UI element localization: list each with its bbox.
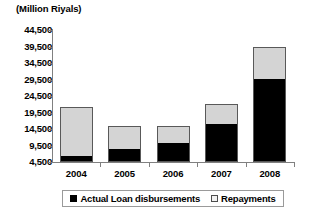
- y-axis-tick-label: 14,500: [6, 124, 52, 134]
- x-axis-tick-mark: [100, 163, 101, 167]
- bar-segment-disbursements: [206, 124, 237, 161]
- legend-item-label: Actual Loan disbursements: [80, 193, 200, 204]
- x-axis-category-label: 2008: [246, 168, 294, 179]
- legend-item-label: Repayments: [221, 193, 276, 204]
- y-axis-tick-label: 29,500: [6, 75, 52, 85]
- plot-area: [52, 30, 294, 162]
- x-axis-category-label: 2005: [100, 168, 148, 179]
- bar-stack-2007: [205, 104, 238, 162]
- stacked-bar-chart: (Million Riyals) 4,5009,50014,50019,5002…: [0, 0, 313, 217]
- bar-segment-disbursements: [61, 156, 92, 161]
- light-square-icon: [211, 195, 218, 202]
- bar-stack-2006: [157, 126, 190, 162]
- bar-segment-disbursements: [158, 143, 189, 161]
- bar-group: [60, 30, 93, 162]
- legend-item-repayments: Repayments: [211, 193, 276, 204]
- x-axis-tick-mark: [197, 163, 198, 167]
- bar-group: [205, 30, 238, 162]
- legend-item-disbursements: Actual Loan disbursements: [70, 193, 200, 204]
- y-axis-tick-label: 34,500: [6, 58, 52, 68]
- bar-group: [253, 30, 286, 162]
- y-axis-tick-label: 9,500: [6, 141, 52, 151]
- x-axis-tick-mark: [246, 163, 247, 167]
- x-axis-category-label: 2004: [52, 168, 100, 179]
- y-axis-tick-label: 24,500: [6, 91, 52, 101]
- bar-stack-2005: [108, 126, 141, 162]
- bar-stack-2008: [253, 47, 286, 163]
- bar-stack-2004: [60, 107, 93, 162]
- y-axis-tick-label: 19,500: [6, 108, 52, 118]
- bar-group: [108, 30, 141, 162]
- x-axis-tick-mark: [149, 163, 150, 167]
- x-axis-line: [52, 162, 295, 163]
- chart-legend: Actual Loan disbursements Repayments: [62, 190, 284, 207]
- x-axis-category-label: 2007: [197, 168, 245, 179]
- x-axis-category-label: 2006: [149, 168, 197, 179]
- y-axis-tick-group: 4,5009,50014,50019,50024,50029,50034,500…: [0, 0, 52, 217]
- x-axis-tick-mark: [294, 163, 295, 167]
- y-axis-tick-label: 39,500: [6, 42, 52, 52]
- bar-segment-disbursements: [254, 79, 285, 161]
- bar-segment-disbursements: [109, 149, 140, 161]
- y-axis-tick-label: 44,500: [6, 25, 52, 35]
- y-axis-tick-label: 4,500: [6, 157, 52, 167]
- bar-group: [157, 30, 190, 162]
- black-square-icon: [70, 195, 77, 202]
